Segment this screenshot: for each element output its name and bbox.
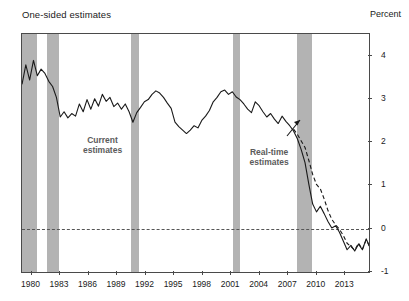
plot-area [21, 33, 370, 273]
series-line-current-estimates [22, 60, 370, 251]
x-tick-label: 2013 [327, 279, 361, 289]
y-axis-unit-label: Percent [370, 9, 401, 19]
series-line-real-time-estimates [294, 129, 370, 250]
annotation-line-1: Real-time [249, 146, 288, 157]
x-tick-mark [287, 271, 288, 275]
x-tick-mark [259, 271, 260, 275]
x-tick-mark [88, 271, 89, 275]
annotation-pointer-arrow [283, 114, 323, 140]
annotation-line-2: estimates [83, 145, 122, 156]
y-tick-mark [368, 184, 372, 185]
chart-figure: One-sided estimates Percent 43210-1 1980… [0, 0, 409, 301]
y-tick-label: 3 [381, 93, 386, 103]
x-tick-mark [202, 271, 203, 275]
y-tick-mark [368, 141, 372, 142]
x-tick-mark [145, 271, 146, 275]
x-tick-mark [316, 271, 317, 275]
y-tick-label: 4 [381, 50, 386, 60]
x-tick-mark [31, 271, 32, 275]
annotation-real-time-estimates: Real-timeestimates [249, 146, 288, 167]
y-tick-label: -1 [381, 266, 389, 276]
y-tick-mark [368, 271, 372, 272]
x-tick-mark [230, 271, 231, 275]
y-tick-mark [368, 55, 372, 56]
y-tick-mark [368, 98, 372, 99]
x-tick-mark [59, 271, 60, 275]
chart-title: One-sided estimates [22, 9, 111, 20]
y-tick-label: 1 [381, 179, 386, 189]
y-tick-label: 0 [381, 223, 386, 233]
annotation-line-1: Current [83, 134, 122, 145]
annotation-line-2: estimates [249, 157, 288, 168]
y-tick-mark [368, 228, 372, 229]
y-tick-label: 2 [381, 136, 386, 146]
series-layer [22, 34, 370, 273]
x-tick-mark [344, 271, 345, 275]
annotation-current-estimates: Currentestimates [83, 134, 122, 155]
x-tick-mark [116, 271, 117, 275]
x-tick-mark [173, 271, 174, 275]
